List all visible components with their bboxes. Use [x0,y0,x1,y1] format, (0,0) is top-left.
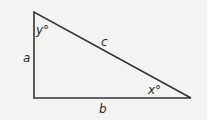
angle-label-right: x° [148,84,161,96]
side-label-vertical: a [23,52,30,64]
angle-label-top: y° [36,24,49,36]
triangle-outline [34,12,191,98]
triangle-diagram: y° a c x° b [0,0,207,120]
side-label-hypotenuse: c [101,36,108,48]
side-label-horizontal: b [99,103,107,115]
